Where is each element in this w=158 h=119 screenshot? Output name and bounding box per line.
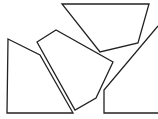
top-quadrilateral [62,4,149,52]
left-pentagon [7,39,73,113]
diagram-canvas [0,0,158,119]
right-partial-shape [104,26,158,113]
